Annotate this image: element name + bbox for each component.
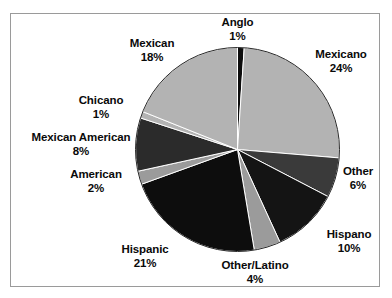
pie-label-mexican-value: 18%	[104, 51, 200, 65]
pie-label-anglo: Anglo 1%	[185, 16, 290, 43]
pie-label-anglo-value: 1%	[185, 30, 290, 44]
pie-label-other-latino-name: Other/Latino	[200, 259, 310, 273]
pie-label-hispanic-name: Hispanic	[92, 243, 198, 257]
pie-label-other-value: 6%	[330, 179, 386, 193]
pie-label-mexicano-value: 24%	[295, 62, 387, 76]
pie-label-anglo-name: Anglo	[185, 16, 290, 30]
pie-label-chicano: Chicano 1%	[52, 94, 150, 121]
pie-label-hispano-value: 10%	[312, 242, 386, 256]
pie-label-chicano-name: Chicano	[52, 94, 150, 108]
pie-label-other-name: Other	[330, 165, 386, 179]
pie-label-american-value: 2%	[44, 182, 148, 196]
pie-label-mexicano-name: Mexicano	[295, 48, 387, 62]
pie-label-other: Other 6%	[330, 165, 386, 192]
pie-label-hispanic: Hispanic 21%	[92, 243, 198, 270]
pie-label-mexican: Mexican 18%	[104, 37, 200, 64]
pie-label-mexican-american: Mexican American 8%	[14, 131, 148, 158]
pie-label-hispano: Hispano 10%	[312, 228, 386, 255]
chart-page: Anglo 1% Mexicano 24% Other 6% Hispano 1…	[0, 0, 392, 298]
pie-slice-group	[136, 47, 340, 251]
pie-label-mexican-american-value: 8%	[14, 145, 148, 159]
pie-label-mexican-american-name: Mexican American	[14, 131, 148, 145]
pie-label-chicano-value: 1%	[52, 108, 150, 122]
pie-label-american-name: American	[44, 168, 148, 182]
pie-label-hispanic-value: 21%	[92, 257, 198, 271]
pie-label-mexican-name: Mexican	[104, 37, 200, 51]
pie-label-american: American 2%	[44, 168, 148, 195]
pie-label-other-latino-value: 4%	[200, 273, 310, 287]
pie-label-mexicano: Mexicano 24%	[295, 48, 387, 75]
pie-label-other-latino: Other/Latino 4%	[200, 259, 310, 286]
pie-label-hispano-name: Hispano	[312, 228, 386, 242]
